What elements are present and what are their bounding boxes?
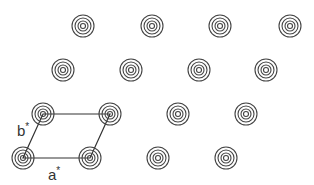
reciprocal-lattice <box>0 0 314 185</box>
diffraction-spot <box>120 59 142 81</box>
diffraction-spot <box>235 103 257 125</box>
diffraction-spot <box>167 103 189 125</box>
diffraction-spot <box>279 15 301 37</box>
b-star-label: b* <box>17 123 29 138</box>
diffraction-spot <box>147 147 169 169</box>
diffraction-spot <box>255 59 277 81</box>
unit-cell-outline <box>23 114 110 158</box>
diffraction-spot <box>72 15 94 37</box>
a-star-label: a* <box>48 167 60 182</box>
diffraction-spot <box>215 147 237 169</box>
b-star-superscript: * <box>25 121 29 132</box>
diffraction-spot <box>52 59 74 81</box>
a-star-superscript: * <box>56 165 60 176</box>
diffraction-spot <box>188 59 210 81</box>
diffraction-spot <box>209 15 231 37</box>
diagram-canvas: a* b* <box>0 0 314 185</box>
diffraction-spot <box>141 15 163 37</box>
